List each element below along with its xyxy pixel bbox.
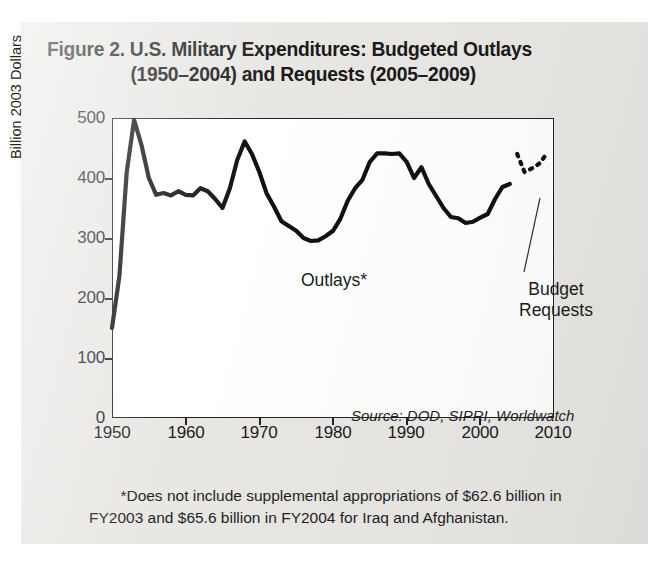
annotation-budget-requests-line-2: Requests — [519, 300, 593, 321]
y-tick-label-100: 100 — [59, 348, 105, 368]
x-tick-mark-1980 — [332, 418, 334, 425]
footnote: *Does not include supplemental appropria… — [81, 485, 601, 529]
x-tick-mark-1960 — [185, 418, 187, 425]
annotation-outlays: Outlays* — [301, 270, 367, 291]
plot-area — [112, 118, 554, 418]
y-tick-label-400: 400 — [59, 168, 105, 188]
x-tick-label-2010: 2010 — [521, 423, 585, 443]
figure-panel: Figure 2. U.S. Military Expenditures: Bu… — [21, 22, 648, 544]
y-tick-label-200: 200 — [59, 288, 105, 308]
y-tick-label-500: 500 — [59, 108, 105, 128]
source-note: Source: DOD, SIPRI, Worldwatch — [351, 407, 574, 424]
x-tick-label-1980: 1980 — [301, 423, 365, 443]
y-tick-label-300: 300 — [59, 228, 105, 248]
x-tick-label-2000: 2000 — [448, 423, 512, 443]
figure-page: Figure 2. U.S. Military Expenditures: Bu… — [0, 0, 669, 564]
x-tick-label-1950: 1950 — [80, 423, 144, 443]
footnote-line-1: *Does not include supplemental appropria… — [81, 485, 601, 507]
chart-plot-wrapper: Billion 2003 Dollars 500 400 300 200 100… — [21, 22, 648, 544]
x-tick-mark-1970 — [259, 418, 261, 425]
x-tick-label-1960: 1960 — [154, 423, 218, 443]
x-tick-label-1970: 1970 — [227, 423, 291, 443]
annotation-budget-requests: Budget Requests — [519, 279, 593, 321]
annotation-budget-requests-line-1: Budget — [519, 279, 593, 300]
y-axis-title: Billion 2003 Dollars — [8, 0, 24, 197]
x-tick-label-1990: 1990 — [374, 423, 438, 443]
footnote-line-2: FY2003 and $65.6 billion in FY2004 for I… — [81, 507, 601, 529]
